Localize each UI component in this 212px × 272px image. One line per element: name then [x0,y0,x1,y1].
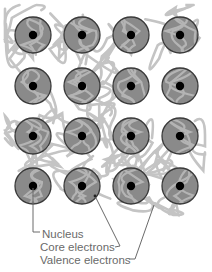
nucleus [29,132,37,140]
atom [162,168,198,210]
nucleus [78,31,86,39]
nucleus [127,182,135,190]
label-nucleus: Nucleus [42,227,84,241]
valence-electrons-leader [129,205,154,259]
nucleus [78,82,86,90]
nucleus [29,31,37,39]
nucleus [127,31,135,39]
atom-lattice [15,17,198,210]
nucleus [176,132,184,140]
atom [113,17,149,59]
nucleus [29,82,37,90]
nucleus [176,31,184,39]
nucleus [127,132,135,140]
atom [64,168,100,210]
atom [162,68,198,110]
metallic-bonding-diagram [0,0,212,272]
atom [113,68,149,110]
label-valence-electrons: Valence electrons [40,253,131,267]
atom [113,118,149,160]
nucleus [78,182,86,190]
nucleus [176,182,184,190]
label-core-electrons: Core electrons [40,240,115,254]
atom [15,68,51,110]
core-electron-pointer-tip [94,195,97,198]
nucleus [127,82,135,90]
atom [64,17,100,59]
nucleus [176,82,184,90]
atom [162,17,198,59]
nucleus [78,132,86,140]
atom [162,118,198,160]
